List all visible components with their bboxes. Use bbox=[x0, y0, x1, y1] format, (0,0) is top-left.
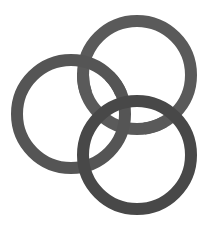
interlocking-rings-diagram bbox=[0, 0, 210, 232]
rings-canvas bbox=[0, 0, 210, 232]
